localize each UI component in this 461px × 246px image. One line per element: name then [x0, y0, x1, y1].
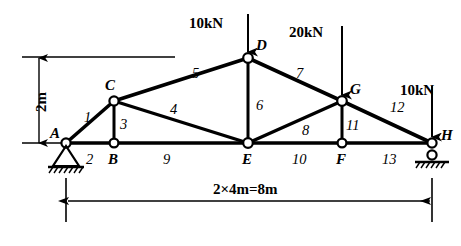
node-label-A: A	[50, 126, 60, 141]
load-arrows	[248, 14, 432, 137]
member-label-5: 5	[192, 66, 199, 81]
support-roller-H	[415, 150, 449, 168]
member-label-4: 4	[170, 102, 177, 117]
node-label-E: E	[242, 152, 252, 167]
member-label-6: 6	[256, 98, 263, 113]
truss-drawing-canvas	[0, 0, 461, 246]
dimension-label-height: 2m	[34, 92, 49, 112]
dimension-label-span: 2×4m=8m	[213, 182, 278, 197]
member-label-7: 7	[296, 66, 303, 81]
member-label-3: 3	[120, 117, 127, 132]
member-label-9: 9	[163, 152, 170, 167]
truss-diagram-figure: A B C D E F G H 1 2 3 4 5 6 7 8 9 10 11 …	[0, 0, 461, 246]
member-label-1: 1	[84, 110, 91, 125]
node-label-C: C	[105, 78, 115, 93]
node-label-H: H	[441, 128, 453, 143]
node-label-G: G	[350, 82, 361, 97]
node-label-B: B	[108, 152, 118, 167]
load-label-H: 10kN	[400, 83, 434, 98]
member-label-10: 10	[292, 152, 307, 167]
member-label-11: 11	[346, 118, 359, 133]
load-label-G: 20kN	[289, 25, 323, 40]
member-label-12: 12	[390, 100, 405, 115]
load-label-D: 10kN	[189, 16, 223, 31]
member-label-8: 8	[302, 123, 309, 138]
node-label-F: F	[336, 152, 346, 167]
support-pin-A	[48, 146, 84, 173]
member-label-13: 13	[382, 152, 397, 167]
member-label-2: 2	[86, 152, 93, 167]
node-label-D: D	[256, 38, 267, 53]
